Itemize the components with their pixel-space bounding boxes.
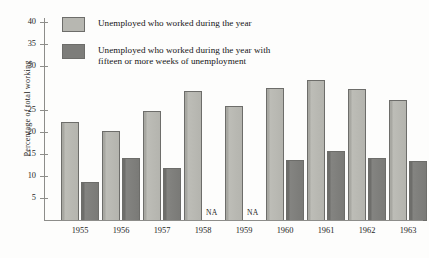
bar-light-1958 bbox=[184, 91, 202, 221]
bar-light-1957 bbox=[143, 111, 161, 221]
bar-dark-1957 bbox=[163, 168, 181, 221]
y-tick-label-5: 5 bbox=[12, 194, 36, 202]
y-tick-40 bbox=[40, 22, 48, 23]
bar-dark-1960 bbox=[286, 160, 304, 221]
x-tick-label-1962: 1962 bbox=[347, 226, 387, 235]
x-tick-label-1963: 1963 bbox=[388, 226, 428, 235]
legend-swatch-dark-icon bbox=[62, 44, 85, 59]
bar-dark-1956 bbox=[122, 158, 140, 221]
bar-light-1956 bbox=[102, 131, 120, 221]
bar-dark-1961 bbox=[327, 151, 345, 221]
legend-swatch-light-icon bbox=[62, 17, 85, 32]
bar-light-1963 bbox=[389, 100, 407, 221]
y-tick-label-15: 15 bbox=[12, 150, 36, 158]
y-tick-label-20: 20 bbox=[12, 128, 36, 136]
bar-light-1955 bbox=[61, 122, 79, 221]
y-tick-label-10: 10 bbox=[12, 172, 36, 180]
x-tick-label-1956: 1956 bbox=[101, 226, 141, 235]
bar-light-1960 bbox=[266, 88, 284, 221]
y-tick-label-30: 30 bbox=[12, 62, 36, 70]
legend-label-dark: Unemployed who worked during the year wi… bbox=[98, 44, 270, 68]
x-axis-line bbox=[44, 220, 423, 221]
bar-dark-1963 bbox=[409, 161, 427, 221]
y-tick-15 bbox=[40, 154, 48, 155]
y-tick-label-25: 25 bbox=[12, 106, 36, 114]
x-tick-label-1958: 1958 bbox=[183, 226, 223, 235]
y-tick-5 bbox=[40, 198, 48, 199]
bar-light-1959 bbox=[225, 106, 243, 221]
bar-light-1962 bbox=[348, 89, 366, 221]
y-tick-35 bbox=[40, 44, 48, 45]
bar-dark-1955 bbox=[81, 182, 99, 221]
na-label-1959: NA bbox=[247, 208, 259, 217]
bar-dark-1962 bbox=[368, 158, 386, 221]
y-tick-10 bbox=[40, 176, 48, 177]
na-label-1958: NA bbox=[206, 208, 218, 217]
y-axis-line bbox=[44, 18, 45, 221]
x-tick-label-1961: 1961 bbox=[306, 226, 346, 235]
bar-light-1961 bbox=[307, 80, 325, 221]
legend-label-light: Unemployed who worked during the year bbox=[98, 17, 252, 29]
y-tick-20 bbox=[40, 132, 48, 133]
legend-entry-dark: Unemployed who worked during the year wi… bbox=[62, 44, 270, 68]
x-tick-label-1955: 1955 bbox=[60, 226, 100, 235]
y-tick-25 bbox=[40, 110, 48, 111]
x-tick-label-1957: 1957 bbox=[142, 226, 182, 235]
y-tick-30 bbox=[40, 66, 48, 67]
bar-chart: Percentage of total working 40 35 30 25 … bbox=[0, 0, 429, 258]
legend-entry-light: Unemployed who worked during the year bbox=[62, 17, 252, 32]
y-tick-label-40: 40 bbox=[12, 18, 36, 26]
y-tick-label-35: 35 bbox=[12, 40, 36, 48]
x-tick-label-1959: 1959 bbox=[224, 226, 264, 235]
x-tick-label-1960: 1960 bbox=[265, 226, 305, 235]
